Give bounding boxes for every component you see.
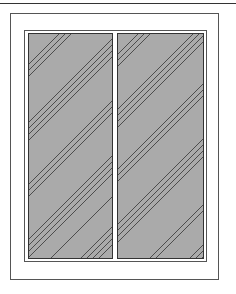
hatch-pattern-left [29, 34, 113, 259]
left-pane [28, 33, 113, 259]
top-border-line [0, 3, 236, 4]
right-pane [117, 33, 204, 259]
hatch-pattern-right [118, 34, 204, 259]
